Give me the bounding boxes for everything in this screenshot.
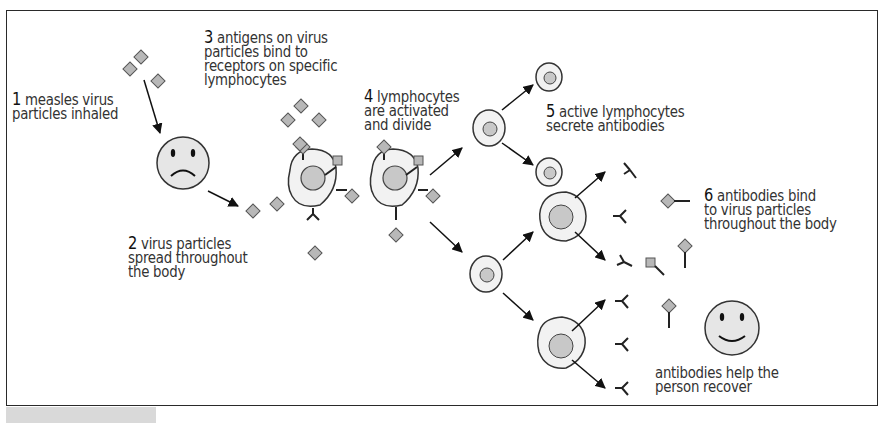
step-6-label: 6 antibodies bind to virus particles thr… (704, 188, 837, 231)
daughter-lymphocyte (536, 158, 562, 186)
lymphocyte-binding-antigen (288, 137, 359, 220)
sad-face-icon (157, 137, 209, 189)
arrow-icon (575, 172, 605, 198)
arrow-icon (502, 143, 533, 165)
arrow-icon (502, 85, 533, 110)
arrow-icon (430, 222, 462, 252)
arrow-icon (503, 293, 533, 320)
daughter-lymphocyte (470, 256, 502, 292)
antibody-icons (613, 163, 636, 395)
step-5-label: 5 active lymphocytes secrete antibodies (546, 104, 684, 133)
happy-face-icon (705, 301, 759, 355)
arrow-icon (208, 191, 238, 206)
step-4-label: 4 lymphocytes are activated and divide (364, 89, 459, 132)
arrow-icon (575, 232, 605, 260)
arrow-icon (572, 300, 605, 331)
daughter-lymphocyte (473, 110, 505, 146)
antibody-virus-complex (646, 194, 692, 328)
arrow-icon (572, 360, 605, 388)
daughter-lymphocyte (536, 63, 562, 91)
arrow-icon (430, 148, 462, 175)
step-3-label: 3 antigens on virus particles bind to re… (204, 30, 337, 87)
activated-lymphocyte (370, 140, 440, 242)
virus-particles-spread (246, 197, 284, 218)
step-2-label: 2 virus particles spread throughout the … (128, 236, 247, 279)
step-1-label: 1 measles virus particles inhaled (12, 92, 118, 121)
recovery-label: antibodies help the person recover (655, 366, 779, 394)
plasma-cell (540, 192, 586, 241)
arrow-icon (503, 232, 533, 260)
